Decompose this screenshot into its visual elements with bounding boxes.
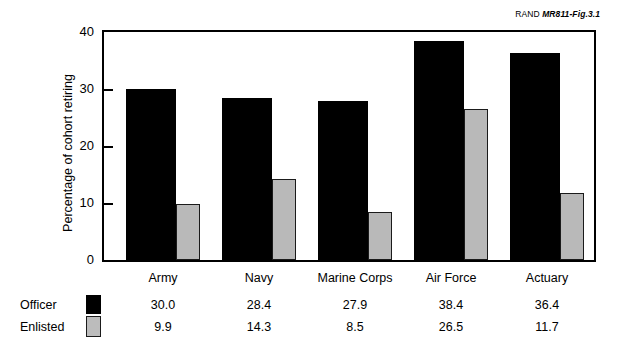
data-value-officer: 36.4 (487, 298, 607, 312)
series-name-officer: Officer (20, 298, 82, 312)
y-axis-tick-label: 30 (68, 82, 94, 95)
bar-officer (126, 89, 176, 260)
figure-bar-chart: RAND MR811-Fig.3.1 Percentage of cohort … (0, 0, 624, 357)
y-axis-title: Percentage of cohort retiring (61, 33, 75, 273)
data-value-enlisted: 11.7 (487, 320, 607, 334)
bar-officer (222, 98, 272, 260)
bar-officer (414, 41, 464, 260)
bar-enlisted (176, 204, 200, 260)
bar-enlisted (560, 193, 584, 260)
y-axis-tick-label: 0 (68, 253, 94, 266)
y-axis-tick (104, 146, 113, 148)
plot-area (104, 32, 594, 260)
series-name-enlisted: Enlisted (20, 320, 82, 334)
y-axis-tick (104, 203, 113, 205)
plot-frame (102, 30, 596, 262)
y-axis-tick (104, 89, 113, 91)
y-axis-tick-label: 20 (68, 139, 94, 152)
x-axis-category-label: Actuary (487, 271, 607, 285)
bar-enlisted (464, 109, 488, 260)
y-axis-tick-label: 40 (68, 25, 94, 38)
bar-enlisted (272, 179, 296, 261)
bar-enlisted (368, 212, 392, 260)
source-tag: RAND MR811-Fig.3.1 (515, 9, 600, 19)
bar-officer (318, 101, 368, 260)
y-axis-tick-label: 10 (68, 196, 94, 209)
source-tag-reference: MR811-Fig.3.1 (542, 9, 600, 19)
legend-swatch-enlisted (86, 316, 101, 337)
source-tag-brand: RAND (515, 9, 542, 19)
legend-swatch-officer (86, 295, 101, 314)
bar-officer (510, 53, 560, 260)
